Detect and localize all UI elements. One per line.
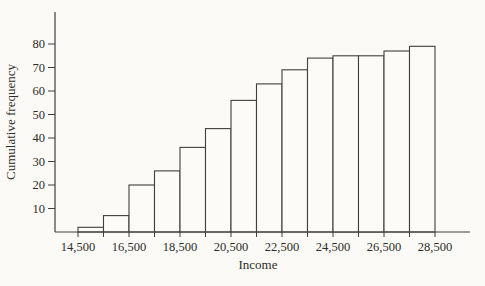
y-tick-label: 20 <box>33 178 46 192</box>
chart-figure: 102030405060708014,50016,50018,50020,500… <box>0 0 485 286</box>
bar <box>129 185 155 232</box>
y-tick-label: 80 <box>33 37 46 51</box>
x-tick-label: 22,500 <box>265 240 299 254</box>
bar <box>78 227 104 232</box>
bar <box>359 56 385 232</box>
y-tick-label: 60 <box>33 84 46 98</box>
bar <box>257 84 283 232</box>
x-tick-label: 28,500 <box>418 240 452 254</box>
y-tick-label: 40 <box>33 131 46 145</box>
bar <box>282 70 308 232</box>
bar <box>155 171 181 232</box>
bar <box>308 58 334 232</box>
y-tick-label: 30 <box>33 155 46 169</box>
x-tick-label: 16,500 <box>112 240 146 254</box>
x-tick-label: 20,500 <box>214 240 248 254</box>
bar <box>180 147 206 232</box>
bar <box>231 100 257 232</box>
y-tick-label: 70 <box>33 61 46 75</box>
cumulative-frequency-chart: 102030405060708014,50016,50018,50020,500… <box>0 0 485 286</box>
y-tick-label: 50 <box>33 108 46 122</box>
y-tick-label: 10 <box>33 202 46 216</box>
bar <box>333 56 359 232</box>
bar <box>104 216 130 232</box>
bar <box>384 51 410 232</box>
y-axis-title: Cumulative frequency <box>3 64 18 180</box>
bar <box>206 129 232 232</box>
bar <box>410 46 436 232</box>
x-tick-label: 18,500 <box>163 240 197 254</box>
x-tick-label: 24,500 <box>316 240 350 254</box>
x-tick-label: 14,500 <box>61 240 95 254</box>
x-axis-title: Income <box>239 257 278 272</box>
x-tick-label: 26,500 <box>367 240 401 254</box>
